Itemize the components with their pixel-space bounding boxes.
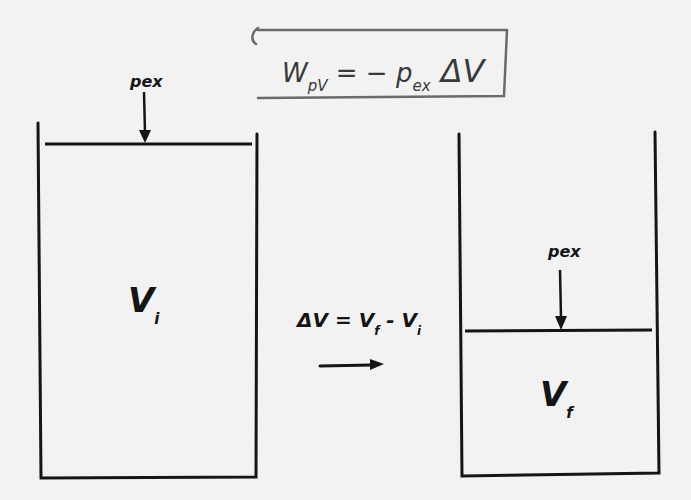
volume-symbol: V [128, 280, 154, 320]
equation-i-subscript: i [417, 324, 421, 338]
equation-delta-part: ΔV = V [297, 308, 374, 332]
formula-pressure-symbol: p [396, 58, 413, 88]
left-pressure-label: pex [130, 72, 163, 91]
right-pressure-label: pex [548, 242, 581, 261]
equation-f-subscript: f [374, 324, 379, 338]
volume-symbol: V [540, 374, 566, 414]
formula-work-symbol: W [282, 58, 308, 88]
work-formula: WpV = − pex ΔV [282, 52, 484, 90]
formula-delta-v: ΔV [431, 52, 485, 90]
right-container [459, 132, 659, 476]
formula-equals: = − [328, 58, 396, 88]
left-pressure-arrow [144, 92, 145, 132]
pressure-symbol: p [548, 242, 559, 261]
process-arrow [320, 359, 384, 370]
initial-volume-label: Vi [128, 280, 159, 320]
volume-subscript: i [154, 310, 159, 328]
right-piston [465, 330, 652, 331]
formula-work-subscript: pV [308, 77, 328, 95]
volume-subscript: f [566, 404, 573, 422]
delta-v-equation: ΔV = Vf - Vi [297, 308, 421, 332]
final-volume-label: Vf [540, 374, 573, 414]
pressure-symbol: p [130, 72, 141, 91]
formula-pressure-subscript: ex [412, 77, 430, 95]
pressure-subscript: ex [141, 72, 162, 91]
equation-minus-part: - V [379, 308, 417, 332]
right-pressure-arrow [560, 270, 561, 318]
pressure-subscript: ex [559, 242, 580, 261]
